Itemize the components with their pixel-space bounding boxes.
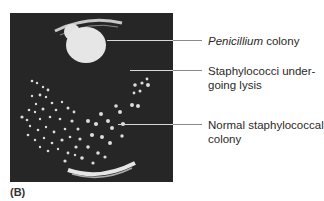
label-penicillium-rest: colony	[263, 35, 299, 47]
label-penicillium-genus: Penicillium	[208, 35, 263, 47]
panel-label: (B)	[10, 186, 25, 198]
label-staphylococci-lysis: Staphylococci under- going lysis	[208, 64, 315, 92]
label-penicillium-colony: Penicillium colony	[208, 34, 299, 48]
penicillium-colony	[64, 24, 106, 63]
label-normal-line1: Normal staphylococcal	[208, 118, 324, 132]
label-normal-line2: colony	[208, 132, 324, 146]
leader-line-normal	[173, 124, 202, 125]
leader-line-penicillium	[173, 40, 202, 41]
label-lysis-line1: Staphylococci under-	[208, 64, 315, 78]
label-lysis-line2: going lysis	[208, 78, 315, 92]
leader-line-lysis	[173, 70, 202, 71]
leader-line-normal-inner	[118, 124, 173, 125]
leader-line-lysis-inner	[130, 70, 173, 71]
label-normal-colony: Normal staphylococcal colony	[208, 118, 324, 146]
staphylococcal-colonies	[20, 78, 150, 165]
petri-dish-photo	[10, 13, 173, 182]
leader-line-penicillium-inner	[107, 40, 173, 41]
petri-dish-illustration	[10, 13, 173, 182]
